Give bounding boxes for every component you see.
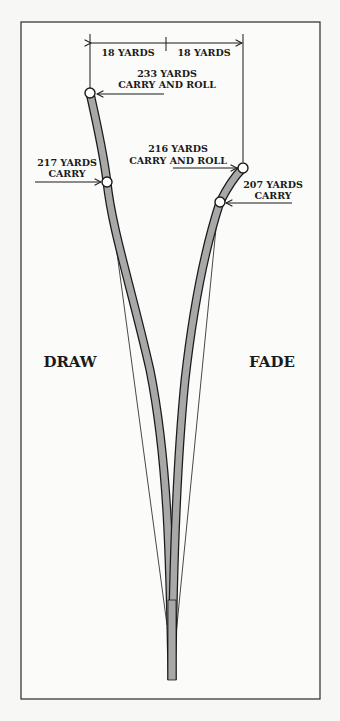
fade-label: FADE	[249, 353, 295, 371]
fade-final-line2: CARRY AND ROLL	[129, 155, 227, 166]
fade-carry-line1: 207 YARDS	[243, 179, 303, 190]
dimension-right-label: 18 YARDS	[177, 47, 230, 58]
draw-fade-diagram: 18 YARDS 18 YARDS 233 YARDS CARRY AND RO…	[0, 0, 340, 721]
draw-carry-marker	[102, 177, 112, 187]
draw-carry-line1: 217 YARDS	[37, 157, 97, 168]
draw-final-line2: CARRY AND ROLL	[118, 79, 216, 90]
draw-final-marker	[85, 88, 95, 98]
fade-carry-line2: CARRY	[254, 190, 291, 201]
fade-final-marker	[238, 163, 248, 173]
draw-carry-line2: CARRY	[48, 168, 85, 179]
draw-final-line1: 233 YARDS	[137, 68, 197, 79]
draw-label: DRAW	[43, 353, 97, 371]
fade-carry-marker	[215, 197, 225, 207]
dimension-left-label: 18 YARDS	[101, 47, 154, 58]
tee-origin	[168, 600, 176, 680]
fade-final-line1: 216 YARDS	[148, 143, 208, 154]
